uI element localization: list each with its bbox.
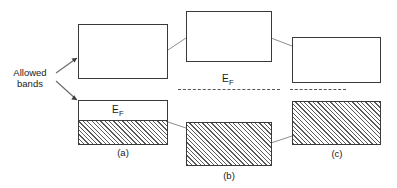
connector-upper-b-to-c [271,38,292,46]
allowed-bands-annotation: Allowed bands [4,67,56,89]
connector-lower-b-to-c [271,136,292,143]
panel-b-lower-band [186,122,272,166]
fermi-level-dash-line-b [178,89,280,90]
allowed-bands-annotation-line1: Allowed [4,67,56,78]
panel-a-fermi-level-label: EF [112,104,124,115]
fermi-level-label-global: EF [222,73,234,84]
energy-band-diagram: Allowed bands EF (a) EF (b) (c) [0,0,397,188]
connector-upper-a-to-b [168,38,186,50]
panel-b-upper-band [186,11,272,62]
fermi-level-dash-line-c [290,89,346,90]
panel-c-lower-band [292,101,381,145]
panel-c-caption: (c) [307,148,367,159]
panel-b-caption: (b) [199,170,259,181]
allowed-bands-annotation-line2: bands [4,78,56,89]
panel-a-upper-band [78,24,168,79]
panel-a-caption: (a) [93,147,153,158]
connector-lower-a-to-b [168,122,186,128]
panel-b-filled-region [187,123,271,165]
panel-c-upper-band [292,37,381,83]
panel-a-filled-region [79,120,167,144]
panel-c-filled-region [293,102,380,144]
